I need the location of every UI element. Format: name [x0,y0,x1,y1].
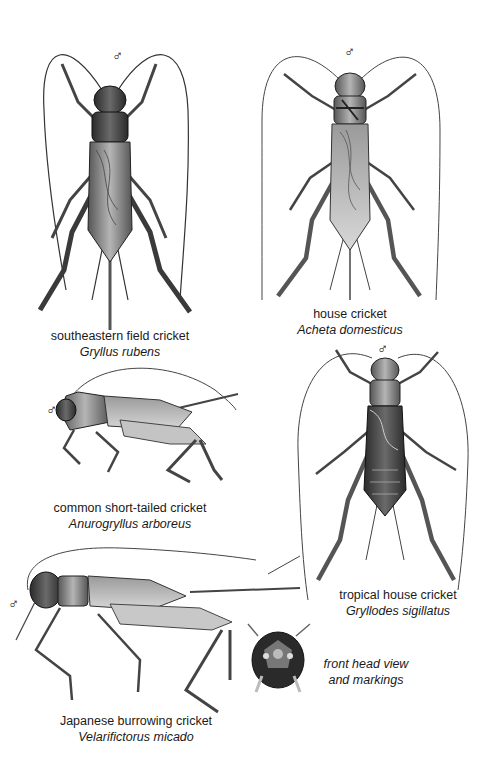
gryllus-rubens-illustration [40,55,190,330]
caption-front-head-view: front head view and markings [316,656,416,688]
common-name: tropical house cricket [318,587,478,603]
caption-anurogryllus-arboreus: common short-tailed cricket Anurogryllus… [30,500,230,532]
inset-caption-line1: front head view [316,656,416,672]
scientific-name: Gryllus rubens [30,344,210,360]
male-symbol-icon: ♂ [112,48,123,63]
acheta-domesticus-illustration [262,57,440,300]
scientific-name: Velarifictorus micado [36,729,236,745]
male-symbol-icon: ♂ [46,402,57,417]
inset-caption-line2: and markings [316,672,416,688]
anurogryllus-arboreus-illustration [56,368,238,482]
caption-gryllus-rubens: southeastern field cricket Gryllus ruben… [30,328,210,360]
scientific-name: Anurogryllus arboreus [30,516,230,532]
front-head-view-illustration [248,624,310,692]
male-symbol-icon: ♂ [8,596,19,611]
scientific-name: Acheta domesticus [280,322,420,338]
common-name: Japanese burrowing cricket [36,713,236,729]
male-symbol-icon: ♂ [377,341,388,356]
male-symbol-icon: ♂ [344,44,355,59]
field-guide-plate: ♂ ♂ ♂ ♂ ♂ southeastern field cricket Gry… [0,0,492,768]
cricket-illustrations [0,0,492,768]
common-name: common short-tailed cricket [30,500,230,516]
gryllodes-sigillatus-illustration [298,350,468,600]
common-name: southeastern field cricket [30,328,210,344]
common-name: house cricket [280,306,420,322]
caption-acheta-domesticus: house cricket Acheta domesticus [280,306,420,338]
caption-velarifictorus-micado: Japanese burrowing cricket Velarifictoru… [36,713,236,745]
scientific-name: Gryllodes sigillatus [318,603,478,619]
caption-gryllodes-sigillatus: tropical house cricket Gryllodes sigilla… [318,587,478,619]
